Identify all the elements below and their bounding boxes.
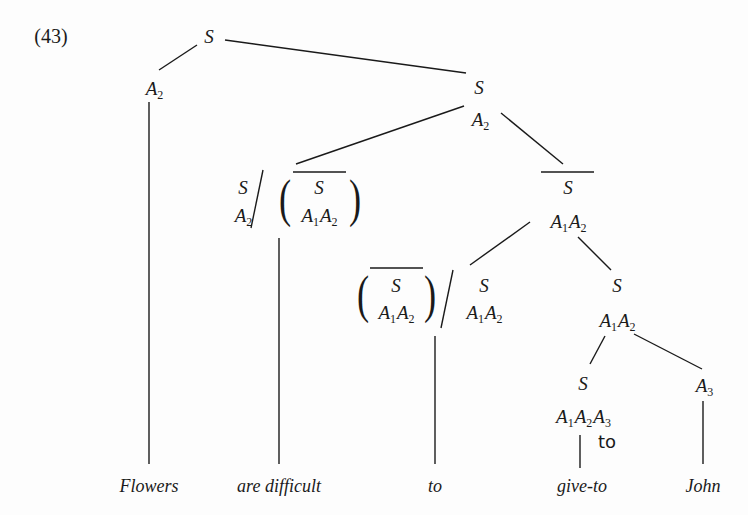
difficult-inner-features: A1A2	[301, 206, 338, 225]
example-number: (43)	[34, 26, 67, 46]
difficult-left-a2: A2	[235, 206, 254, 225]
tree-edges	[0, 0, 748, 515]
word-to: to	[428, 477, 442, 495]
edge-s-left	[590, 336, 605, 364]
syntax-tree-diagram: (43) S A2 S A2 S A2 ( S A1A2 ) S A1A2 ( …	[0, 0, 748, 515]
edge-s2-right	[501, 113, 563, 164]
node-john-a3: A3	[696, 376, 715, 395]
edge-sbar-left	[470, 222, 530, 265]
word-give-to: give-to	[557, 477, 607, 495]
word-flowers: Flowers	[119, 477, 178, 495]
node-s-a1a2-features: A1A2	[599, 311, 636, 330]
edge-sbar-right	[578, 237, 611, 270]
edge-root-right	[225, 40, 466, 73]
edge-s-right	[634, 334, 702, 369]
node-giveto-s: S	[578, 374, 588, 393]
node-left-a2: A2	[146, 79, 165, 98]
node-giveto-features: A1A2A3	[556, 407, 612, 426]
to-paren-open: (	[357, 269, 369, 321]
difficult-inner-s: S	[314, 178, 324, 197]
to-inner-features: A1A2	[378, 303, 415, 322]
to-paren-close: )	[424, 269, 436, 321]
to-right-s: S	[479, 276, 489, 295]
difficult-paren-open: (	[279, 173, 291, 225]
giveto-annotation: to	[598, 433, 616, 451]
node-sbar-features: A1A2	[550, 212, 587, 231]
difficult-paren-close: )	[349, 173, 361, 225]
word-are-difficult: are difficult	[237, 477, 321, 495]
node-s2: S	[474, 78, 484, 97]
node-sbar: S	[563, 178, 573, 197]
edge-s2-left	[296, 106, 464, 164]
node-s2-feature: A2	[472, 110, 491, 129]
difficult-left-s: S	[238, 178, 248, 197]
slash-to	[441, 270, 453, 328]
to-inner-s: S	[391, 276, 401, 295]
edge-root-left	[159, 45, 197, 70]
word-john: John	[686, 477, 721, 495]
to-right-features: A1A2	[466, 303, 503, 322]
node-root-s: S	[204, 27, 214, 46]
node-s-a1a2: S	[612, 276, 622, 295]
